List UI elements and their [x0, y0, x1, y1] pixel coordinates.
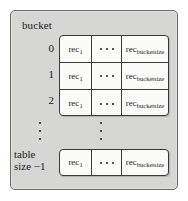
row-index-0: 0 — [14, 42, 54, 54]
record-first-label: rec1 — [68, 99, 82, 108]
dot — [39, 122, 41, 124]
cell-horizontal-ellipsis — [92, 36, 122, 62]
cell-horizontal-ellipsis — [92, 90, 122, 116]
table-size-label: table size −1 — [14, 148, 60, 172]
record-last-subscript: bucketsize — [137, 75, 164, 82]
record-first-label: rec1 — [68, 45, 82, 54]
horizontal-ellipsis-icon — [100, 162, 114, 164]
table-row: rec1 recbucketsize — [60, 90, 168, 116]
cell-horizontal-ellipsis — [92, 63, 122, 89]
dot — [112, 75, 114, 77]
table-row: rec1 recbucketsize — [60, 63, 168, 90]
horizontal-ellipsis-icon — [100, 75, 114, 77]
cell-first-record: rec1 — [60, 150, 92, 175]
record-last-subscript: bucketsize — [137, 161, 164, 168]
record-last-subscript: bucketsize — [137, 102, 164, 109]
record-first-subscript: 1 — [79, 102, 82, 109]
record-last-label: recbucketsize — [126, 45, 164, 54]
bucket-table: rec1 recbucketsize rec1 — [59, 35, 169, 116]
cell-first-record: rec1 — [60, 36, 92, 62]
row-index-2: 2 — [14, 94, 54, 106]
dot — [112, 103, 114, 105]
table-row: rec1 recbucketsize — [60, 150, 168, 175]
dot — [100, 138, 102, 140]
horizontal-ellipsis-icon — [100, 48, 114, 50]
dot — [39, 130, 41, 132]
record-last-label: recbucketsize — [126, 158, 164, 167]
cell-last-record: recbucketsize — [122, 90, 168, 116]
dot — [100, 122, 102, 124]
record-first-subscript: 1 — [79, 161, 82, 168]
table-row: rec1 recbucketsize — [60, 36, 168, 63]
bucket-caption: bucket — [22, 19, 52, 31]
record-first-subscript: 1 — [79, 48, 82, 55]
dot — [106, 75, 108, 77]
record-last-subscript: bucketsize — [137, 48, 164, 55]
table-size-label-line2: size −1 — [14, 160, 60, 172]
vertical-ellipsis-middle-icon — [99, 120, 107, 146]
record-first-subscript: 1 — [79, 75, 82, 82]
cell-last-record: recbucketsize — [122, 63, 168, 89]
record-last-label: recbucketsize — [126, 72, 164, 81]
dot — [100, 75, 102, 77]
dot — [112, 162, 114, 164]
dot — [106, 162, 108, 164]
dot — [100, 130, 102, 132]
record-last-label: recbucketsize — [126, 99, 164, 108]
bucket-table-last-row: rec1 recbucketsize — [59, 149, 169, 176]
table-size-label-line1: table — [14, 148, 60, 160]
record-first-label: rec1 — [68, 158, 82, 167]
dot — [100, 103, 102, 105]
dot — [106, 103, 108, 105]
horizontal-ellipsis-icon — [100, 103, 114, 105]
figure-panel: bucket 0 1 2 table size −1 rec1 — [10, 10, 178, 190]
dot — [100, 48, 102, 50]
cell-horizontal-ellipsis — [92, 150, 122, 175]
cell-first-record: rec1 — [60, 90, 92, 116]
cell-first-record: rec1 — [60, 63, 92, 89]
row-index-1: 1 — [14, 68, 54, 80]
cell-last-record: recbucketsize — [122, 36, 168, 62]
dot — [39, 138, 41, 140]
cell-last-record: recbucketsize — [122, 150, 168, 175]
record-first-label: rec1 — [68, 72, 82, 81]
vertical-ellipsis-index-icon — [38, 120, 46, 146]
dot — [112, 48, 114, 50]
dot — [106, 48, 108, 50]
dot — [100, 162, 102, 164]
